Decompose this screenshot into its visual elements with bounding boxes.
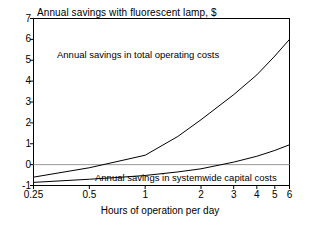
chart-title: Annual savings with fluorescent lamp, $ (36, 7, 218, 18)
y-tick-label: 6 (5, 34, 31, 44)
y-tick-label: 0 (5, 160, 31, 170)
y-tick-label: 3 (5, 97, 31, 107)
data-series-lines (34, 39, 290, 182)
series-annotation-operating-costs: Annual savings in total operating costs (57, 50, 219, 60)
x-tick-label: 3 (231, 190, 237, 200)
x-tick-label: 4 (254, 190, 260, 200)
x-tick-label: 1 (142, 190, 148, 200)
x-tick-label: 0.25 (24, 190, 43, 200)
x-axis-label: Hours of operation per day (0, 205, 320, 216)
y-tick-label: 7 (5, 14, 31, 24)
y-tick-label: 1 (5, 139, 31, 149)
x-tick-label: 0.5 (82, 190, 96, 200)
y-tick-label: 2 (5, 118, 31, 128)
chart-container: Annual savings with fluorescent lamp, $ … (0, 0, 320, 226)
x-tick-label: 5 (272, 190, 278, 200)
tick-marks (30, 19, 290, 190)
y-tick-label: 5 (5, 55, 31, 65)
series-annotation-capital-costs: Annual savings in systemwide capital cos… (95, 173, 277, 183)
x-tick-label: 6 (287, 190, 293, 200)
y-tick-label: 4 (5, 76, 31, 86)
x-tick-label: 2 (198, 190, 204, 200)
